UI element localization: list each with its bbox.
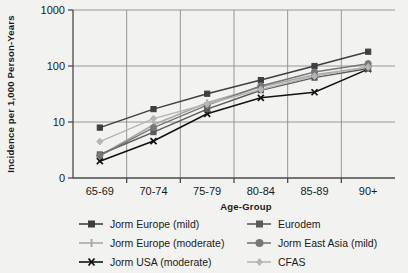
- legend-swatch-cfas: [246, 256, 272, 268]
- incidence-by-age-group-chart: 010100100065-6970-7475-7980-8485-8990+Ag…: [0, 0, 408, 273]
- data-point-cfas: [150, 115, 156, 122]
- x-axis-category-label: 65-69: [86, 185, 114, 197]
- legend-label-eurodem: Eurodem: [278, 218, 321, 230]
- x-axis-category-label: 80-84: [247, 185, 275, 197]
- legend-swatch-jorm-europe-mild: [78, 218, 104, 230]
- legend-label-jorm-east-asia-mild: Jorm East Asia (mild): [278, 237, 377, 249]
- x-axis-category-label: 90+: [359, 185, 378, 197]
- legend-label-jorm-europe-moderate: Jorm Europe (moderate): [110, 237, 224, 249]
- data-point-jorm-east-asia-mild: [150, 125, 156, 131]
- x-axis-category-label: 70-74: [139, 185, 167, 197]
- data-point-jorm-east-asia-mild: [97, 153, 103, 159]
- x-axis-category-label: 85-89: [300, 185, 328, 197]
- legend-column-right: Eurodem Jorm East Asia (mild) CFAS: [246, 214, 406, 273]
- y-axis-tick-label: 1000: [41, 4, 65, 16]
- chart-legend: Jorm Europe (mild) Jorm Europe (moderate…: [0, 214, 408, 273]
- x-axis-title: Age-Group: [220, 201, 271, 212]
- x-axis-category-label: 75-79: [193, 185, 221, 197]
- legend-label-jorm-europe-mild: Jorm Europe (mild): [110, 218, 199, 230]
- y-axis-tick-label: 10: [53, 116, 65, 128]
- legend-item-cfas[interactable]: CFAS: [246, 254, 406, 270]
- data-point-jorm-europe-mild: [151, 106, 156, 111]
- legend-swatch-jorm-east-asia-mild: [246, 237, 272, 249]
- data-point-jorm-europe-mild: [258, 78, 263, 83]
- y-axis-tick-label: 100: [47, 60, 65, 72]
- legend-swatch-jorm-usa-moderate: [78, 256, 104, 268]
- legend-column-left: Jorm Europe (mild) Jorm Europe (moderate…: [78, 214, 236, 273]
- y-axis-title: Incidence per 1,000 Person-Years: [5, 15, 16, 172]
- data-point-jorm-europe-mild: [366, 49, 371, 54]
- legend-swatch-eurodem: [246, 218, 272, 230]
- data-point-jorm-europe-mild: [312, 63, 317, 68]
- legend-item-eurodem[interactable]: Eurodem: [246, 216, 406, 232]
- legend-item-jorm-europe-mild[interactable]: Jorm Europe (mild): [78, 216, 236, 232]
- legend-swatch-jorm-europe-moderate: [78, 237, 104, 249]
- data-point-jorm-europe-mild: [97, 125, 102, 130]
- legend-label-cfas: CFAS: [278, 256, 305, 268]
- legend-label-jorm-usa-moderate: Jorm USA (moderate): [110, 256, 212, 268]
- y-axis-tick-label: 0: [59, 172, 65, 184]
- legend-item-jorm-europe-moderate[interactable]: Jorm Europe (moderate): [78, 235, 236, 251]
- chart-plot-area: 010100100065-6970-7475-7980-8485-8990+Ag…: [0, 0, 408, 214]
- legend-item-jorm-usa-moderate[interactable]: Jorm USA (moderate): [78, 254, 236, 270]
- data-point-jorm-europe-mild: [205, 91, 210, 96]
- data-point-cfas: [97, 138, 103, 145]
- legend-item-jorm-east-asia-mild[interactable]: Jorm East Asia (mild): [246, 235, 406, 251]
